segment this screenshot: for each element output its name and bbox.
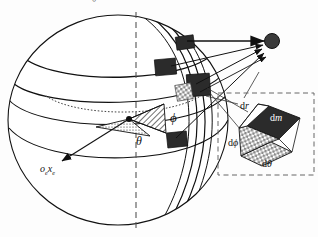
mass-element-2 bbox=[154, 58, 176, 76]
label-dphi: dϕ bbox=[228, 137, 238, 148]
label-phi: ϕ bbox=[170, 110, 177, 126]
mass-element-4 bbox=[166, 131, 187, 148]
label-dtheta-var: θ bbox=[267, 158, 272, 169]
label-frame-axis: oexe bbox=[40, 163, 55, 176]
figure-root: 一一一一一一一一。 bbox=[0, 0, 318, 237]
label-dm: dm bbox=[270, 112, 282, 123]
label-dphi-var: ϕ bbox=[233, 137, 238, 148]
mass-element-1 bbox=[175, 35, 195, 50]
frame-axis-sub-2: e bbox=[52, 169, 55, 176]
point-mass bbox=[265, 34, 280, 49]
label-dr-var: r bbox=[245, 100, 249, 111]
label-dtheta: dθ bbox=[262, 158, 272, 169]
label-dm-var: m bbox=[275, 112, 282, 123]
label-dr: dr bbox=[240, 100, 249, 111]
label-theta: θ bbox=[136, 134, 142, 149]
mass-element-checker-patch bbox=[175, 83, 194, 102]
